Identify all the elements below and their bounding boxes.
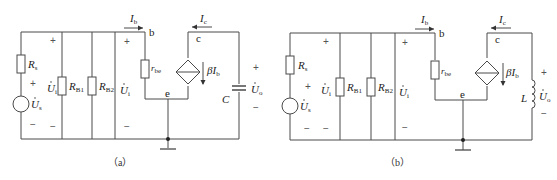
dependent-current-source-a <box>176 60 200 84</box>
plus-sign: + <box>305 81 311 92</box>
plus-sign: + <box>50 35 56 46</box>
resistor-rb2-a <box>88 77 96 95</box>
label-rbe-a: rbe <box>151 63 161 75</box>
label-rb1-a: RB1 <box>68 80 84 94</box>
minus-sign: − <box>304 123 310 134</box>
resistor-rs-a <box>17 55 25 73</box>
arrow-ib-b <box>415 27 434 32</box>
voltage-source-us-a <box>13 96 29 112</box>
label-ui-left-a: Ui <box>47 82 57 96</box>
label-node-c-a: c <box>196 32 201 44</box>
label-us-b: Us <box>300 100 311 114</box>
inductor-l-b <box>532 80 535 108</box>
dependent-current-source-b <box>475 61 499 85</box>
label-beta-ib-a: βIb <box>206 64 220 78</box>
label-node-b-b: b <box>439 27 445 39</box>
label-ib-b: Ib <box>420 13 429 27</box>
label-node-e-b: e <box>460 88 465 100</box>
voltage-source-us-b <box>282 98 298 114</box>
minus-sign: − <box>541 108 547 119</box>
arrow-beta-ib-a <box>201 62 206 85</box>
label-ib-a: Ib <box>129 12 138 26</box>
label-rb2-a: RB2 <box>98 80 114 94</box>
plus-sign: + <box>323 36 329 47</box>
arrow-ic-b <box>491 26 511 31</box>
label-rb1-b: RB1 <box>346 81 362 95</box>
figure-caption-a: （a） <box>108 157 132 168</box>
resistor-rbe-a <box>141 60 149 78</box>
plus-sign: + <box>30 78 36 89</box>
label-load-l-b: L <box>520 92 527 104</box>
label-rb2-b: RB2 <box>377 81 393 95</box>
label-ui-left-b: Ui <box>321 84 331 98</box>
resistor-rb2-b <box>367 78 375 96</box>
resistor-rb1-a <box>58 77 66 95</box>
plus-sign: + <box>541 67 547 78</box>
label-ic-a: Ic <box>199 12 207 26</box>
label-node-e-a: e <box>165 87 170 99</box>
minus-sign: − <box>30 119 36 130</box>
label-node-b-a: b <box>149 26 155 38</box>
label-ui-right-b: Ui <box>399 86 409 100</box>
label-rs-b: Rs <box>297 59 308 73</box>
minus-sign: − <box>402 122 408 133</box>
minus-sign: − <box>253 102 259 113</box>
arrow-ic-a <box>192 25 212 30</box>
resistor-rb1-b <box>336 78 344 96</box>
plus-sign: + <box>253 62 259 73</box>
label-us-a: Us <box>31 98 42 112</box>
capacitor-c-a <box>232 86 246 90</box>
figure-b: Rs Us + − + − Ui RB1 RB2 + Ui − Ib b Ic … <box>282 13 551 168</box>
label-beta-ib-b: βIb <box>505 66 519 80</box>
minus-sign: − <box>323 123 329 134</box>
circuit-diagrams: Rs Us + − + − Ui RB1 RB2 + Ui − Ib b Ic … <box>0 0 557 180</box>
label-rs-a: Rs <box>27 58 38 72</box>
label-ic-b: Ic <box>498 13 506 27</box>
plus-sign: + <box>124 36 130 47</box>
figure-a: Rs Us + − + − Ui RB1 RB2 + Ui − Ib b Ic … <box>13 12 263 168</box>
arrow-ib-a <box>124 26 143 31</box>
label-node-c-b: c <box>495 33 500 45</box>
label-uo-b: Uo <box>539 90 551 104</box>
figure-caption-b: （b） <box>385 157 410 168</box>
minus-sign: − <box>124 121 130 132</box>
plus-sign: + <box>402 37 408 48</box>
resistor-rbe-b <box>431 61 439 79</box>
label-rbe-b: rbe <box>441 66 451 78</box>
label-load-c-a: C <box>222 93 230 105</box>
minus-sign: − <box>50 121 56 132</box>
arrow-beta-ib-b <box>501 63 506 86</box>
label-uo-a: Uo <box>251 83 263 97</box>
label-ui-right-a: Ui <box>120 84 130 98</box>
resistor-rs-b <box>286 56 294 74</box>
